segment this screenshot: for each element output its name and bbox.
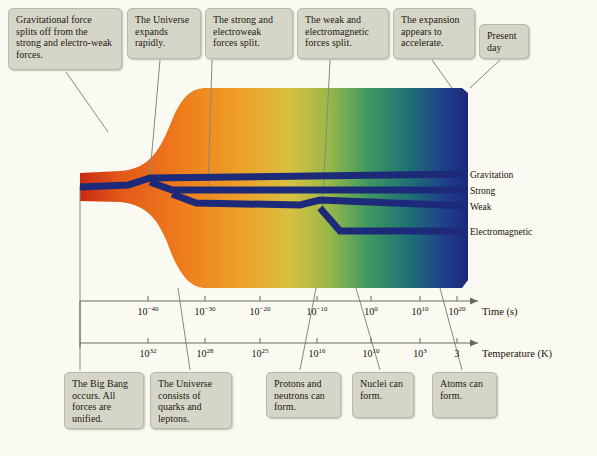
callout-big-bang[interactable]: The Big Bang occurs. All forces are unif…: [64, 372, 144, 429]
leader-quarks: [178, 288, 190, 370]
diagram-stage: Gravitational force splits off from the …: [0, 0, 597, 456]
temperature-tick: 1025: [252, 348, 269, 359]
callout-strong-electroweak-split[interactable]: The strong and electroweak forces split.: [205, 8, 293, 59]
callout-gravitational-split[interactable]: Gravitational force splits off from the …: [8, 8, 122, 70]
callout-quarks-leptons[interactable]: The Universe consists of quarks and lept…: [150, 372, 232, 429]
callout-nuclei-form[interactable]: Nuclei can form.: [352, 372, 414, 418]
time-axis-label: Time (s): [482, 306, 518, 317]
temperature-tick: 1028: [197, 348, 214, 359]
time-tick: 10−10: [307, 306, 328, 317]
temperature-axis-label: Temperature (K): [482, 348, 552, 359]
force-label-gravitation: Gravitation: [470, 170, 513, 180]
callout-weak-electromagnetic-split[interactable]: The weak and electromagnetic forces spli…: [297, 8, 389, 59]
force-label-weak: Weak: [470, 202, 491, 212]
callout-expansion-accelerates[interactable]: The expansion appears to accelerate.: [393, 8, 475, 59]
leader-present-day: [470, 60, 500, 88]
leader-gravitational: [66, 72, 108, 132]
callout-protons-neutrons[interactable]: Protons and neutrons can form.: [266, 372, 341, 418]
temperature-tick: 3: [455, 348, 460, 359]
time-tick: 10−30: [195, 306, 216, 317]
time-tick: 10−20: [250, 306, 271, 317]
temperature-tick: 1032: [140, 348, 157, 359]
time-tick: 1010: [412, 306, 429, 317]
leader-acceleration: [432, 60, 452, 88]
force-label-strong: Strong: [470, 186, 495, 196]
time-tick: 100: [364, 306, 378, 317]
temperature-tick: 103: [413, 348, 427, 359]
time-tick: 10−40: [138, 306, 159, 317]
temperature-tick: 1010: [363, 348, 380, 359]
force-label-electromagnetic: Electromagnetic: [470, 227, 532, 237]
time-axis: [80, 296, 478, 305]
callout-universe-expands[interactable]: The Universe expands rapidly.: [127, 8, 201, 59]
callout-present-day[interactable]: Present day: [479, 24, 529, 59]
time-tick: 1020: [449, 306, 466, 317]
temperature-tick: 1016: [309, 348, 326, 359]
callout-atoms-form[interactable]: Atoms can form.: [432, 372, 497, 418]
